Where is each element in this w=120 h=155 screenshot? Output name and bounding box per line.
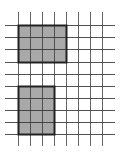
grid-diagram [0,0,120,155]
grid-canvas [0,0,120,155]
